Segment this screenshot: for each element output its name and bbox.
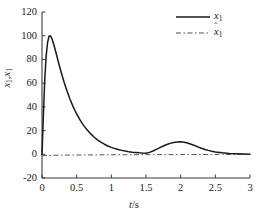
legend-label-x1hat: ˆx1 [214, 27, 222, 39]
legend-label-x1-sub: 1 [219, 14, 223, 23]
y-axis-label-var1: x [1, 83, 12, 88]
y-tick-label: 0 [0, 149, 37, 160]
y-tick-label: 20 [0, 125, 37, 136]
x-axis-label-unit: /s [132, 199, 139, 210]
legend-label-x1hat-group: ˆx [214, 27, 219, 38]
series-line-x1 [42, 36, 250, 155]
x-axis-label: t/s [0, 200, 268, 211]
series-line-x1hat [42, 154, 250, 155]
legend-sample-dashed [176, 28, 210, 38]
legend-label-x1hat-sub: 1 [219, 30, 223, 39]
legend-label-x1hat-accent: ˆ [214, 22, 218, 31]
y-axis-label-hatgroup: ˆx [2, 72, 13, 77]
y-axis-label-sub1: 1 [5, 79, 14, 83]
x-tick-label: 0.5 [70, 183, 83, 194]
x-tick-label: 1.5 [139, 183, 152, 194]
y-axis-label: x1,ˆx1 [2, 48, 14, 108]
legend-sample-solid [176, 12, 210, 22]
y-tick-label: 120 [0, 7, 37, 18]
chart-legend: x1 ˆx1 [176, 9, 254, 41]
chart-figure: 120100806040200-20 00.511.522.53 t/s x1,… [0, 0, 268, 221]
x-tick-label: 3 [247, 183, 252, 194]
x-tick-label: 0 [39, 183, 44, 194]
x-tick-label: 2 [178, 183, 183, 194]
x-tick-label: 2.5 [209, 183, 222, 194]
y-tick-label: -20 [0, 173, 37, 184]
y-axis-label-hat-accent: ˆ [0, 73, 6, 77]
y-axis-label-separator: , [1, 77, 12, 80]
x-tick-label: 1 [109, 183, 114, 194]
legend-item-x1hat: ˆx1 [176, 25, 254, 41]
y-tick-label: 100 [0, 30, 37, 41]
